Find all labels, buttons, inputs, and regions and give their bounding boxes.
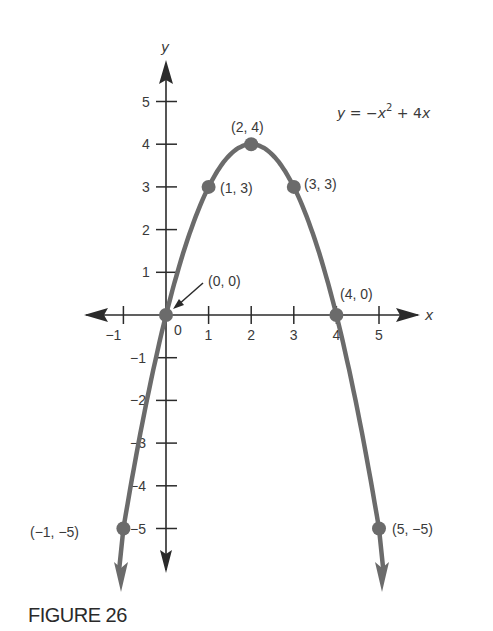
x-tick-label: 5: [375, 327, 383, 343]
parabola-chart: −1012345 x −5−4−3−2−112345 y (−1, −5) (0…: [0, 0, 493, 631]
x-tick-label: 2: [247, 327, 255, 343]
x-axis-label: x: [424, 307, 434, 323]
data-point-marker: [329, 308, 343, 322]
data-point-marker: [287, 180, 301, 194]
data-point-marker: [244, 137, 258, 151]
y-tick-label: 5: [142, 94, 150, 110]
x-tick-label: 0: [174, 322, 182, 338]
x-tick-label: 1: [205, 327, 213, 343]
parabola-curve: [114, 144, 389, 592]
x-axis: −1012345 x: [84, 306, 434, 343]
point-label-5-neg5: (5, −5): [392, 521, 433, 537]
origin-pointer-arrow-icon: [173, 283, 203, 309]
equation-label: y = −x2 + 4x: [336, 102, 431, 121]
point-label-1-3: (1, 3): [220, 180, 253, 196]
data-point-marker: [202, 180, 216, 194]
y-tick-label: 4: [142, 136, 150, 152]
data-point-marker: [372, 522, 386, 536]
y-tick-label: 1: [142, 264, 150, 280]
y-tick-label: 3: [142, 179, 150, 195]
point-labels: (−1, −5) (0, 0) (1, 3) (2, 4) (3, 3) (4,…: [30, 119, 433, 540]
y-axis-label: y: [160, 39, 170, 55]
point-label-4-0: (4, 0): [340, 286, 373, 302]
data-point-marker: [116, 522, 130, 536]
point-label-3-3: (3, 3): [304, 176, 337, 192]
y-tick-label: −1: [130, 350, 146, 366]
x-tick-label: 3: [290, 327, 298, 343]
figure-caption: FIGURE 26: [28, 604, 127, 627]
point-label-2-4: (2, 4): [231, 119, 264, 135]
point-label-neg1-neg5: (−1, −5): [30, 524, 79, 540]
y-tick-label: −5: [130, 521, 146, 537]
y-tick-label: 2: [142, 222, 150, 238]
data-point-marker: [159, 308, 173, 322]
x-tick-label: −1: [105, 327, 121, 343]
point-label-0-0: (0, 0): [208, 273, 241, 289]
